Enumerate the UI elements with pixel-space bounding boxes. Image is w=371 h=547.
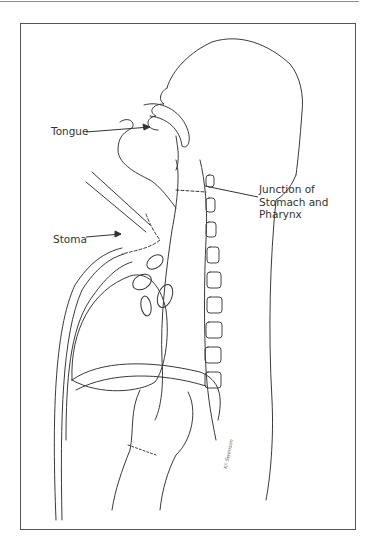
arrow-tongue-head (143, 124, 150, 130)
arrow-tongue (86, 127, 150, 132)
arrow-stoma-head (115, 231, 121, 237)
label-leaders (0, 0, 371, 547)
leader-junction (205, 186, 258, 197)
